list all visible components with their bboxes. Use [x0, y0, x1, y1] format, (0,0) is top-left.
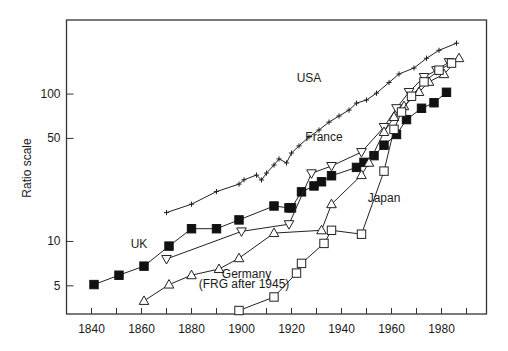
data-point-japan	[380, 167, 388, 175]
series-labels: USAFranceUKJapanGermany(FRG after 1945)	[131, 71, 401, 291]
data-point-germany	[317, 225, 327, 234]
data-point-uk	[317, 178, 325, 186]
data-point-uk	[235, 216, 243, 224]
chart: 1840186018801900192019401960198051050100…	[0, 0, 508, 351]
data-point-uk	[430, 99, 438, 107]
data-point-uk	[442, 88, 450, 96]
data-point-usa	[454, 41, 459, 46]
data-point-uk	[327, 172, 335, 180]
data-point-japan	[390, 125, 398, 133]
data-point-usa	[189, 202, 194, 207]
data-point-germany	[164, 280, 174, 289]
data-point-uk	[115, 271, 123, 279]
x-tick-label: 1900	[228, 322, 255, 336]
data-point-uk	[187, 225, 195, 233]
data-point-uk	[270, 202, 278, 210]
data-point-usa	[214, 189, 219, 194]
data-point-uk	[417, 104, 425, 112]
data-point-uk	[165, 242, 173, 250]
data-point-japan	[447, 59, 455, 67]
y-tick-label: 5	[54, 279, 61, 293]
x-tick-label: 1980	[428, 322, 455, 336]
data-point-usa	[284, 160, 289, 165]
data-point-japan	[292, 269, 300, 277]
x-tick-label: 1940	[328, 322, 355, 336]
data-point-japan	[235, 306, 243, 314]
data-point-uk	[212, 225, 220, 233]
data-point-uk	[90, 280, 98, 288]
x-tick-label: 1880	[178, 322, 205, 336]
data-point-japan	[270, 293, 278, 301]
data-point-uk	[380, 141, 388, 149]
data-point-japan	[357, 230, 365, 238]
data-point-usa	[164, 210, 169, 215]
data-point-france	[307, 170, 317, 179]
y-tick-label: 100	[40, 87, 60, 101]
data-point-japan	[297, 259, 305, 267]
y-axis-label: Ratio scale	[20, 138, 34, 198]
plot-frame	[67, 20, 487, 314]
data-point-japan	[435, 66, 443, 74]
label-japan: Japan	[368, 191, 401, 205]
data-point-uk	[140, 262, 148, 270]
data-point-japan	[407, 92, 415, 100]
data-point-japan	[397, 108, 405, 116]
data-point-japan	[327, 226, 335, 234]
x-tick-label: 1840	[78, 322, 105, 336]
x-tick-label: 1920	[278, 322, 305, 336]
label-usa: USA	[297, 71, 322, 85]
series-group	[90, 41, 464, 315]
data-point-france	[357, 149, 367, 158]
data-point-france	[162, 256, 172, 265]
y-tick-label: 10	[47, 234, 61, 248]
data-point-japan	[320, 239, 328, 247]
data-point-usa	[336, 113, 341, 118]
label-uk: UK	[131, 237, 148, 251]
label-frg-after-1945: (FRG after 1945)	[199, 277, 290, 291]
data-point-germany	[139, 296, 149, 305]
data-point-usa	[436, 48, 441, 53]
x-tick-label: 1860	[128, 322, 155, 336]
series-france	[162, 59, 454, 264]
x-tick-label: 1960	[378, 322, 405, 336]
data-point-germany	[269, 228, 279, 237]
data-point-germany	[234, 253, 244, 262]
label-france: France	[305, 130, 343, 144]
y-tick-label: 50	[47, 131, 61, 145]
data-point-japan	[420, 78, 428, 86]
series-line-uk	[94, 92, 447, 284]
